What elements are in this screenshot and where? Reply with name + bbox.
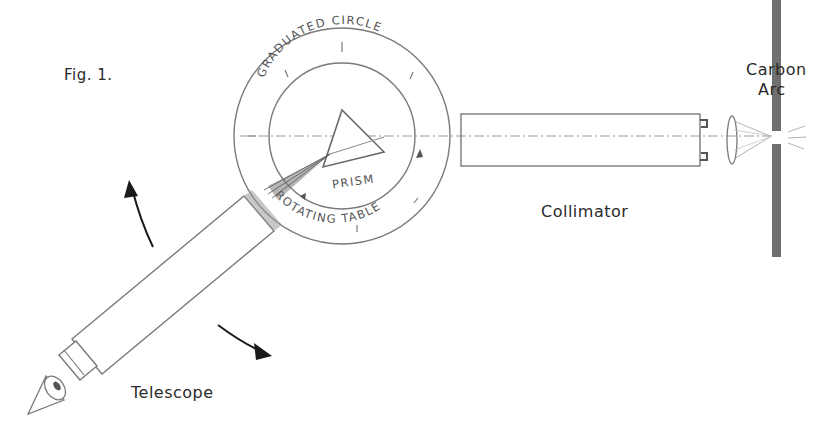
carbon-arc	[772, 0, 806, 257]
collimator	[461, 114, 770, 166]
spectrometer-diagram: GRADUATED CIRCLE ROTATING TABLE PRISM	[0, 0, 832, 430]
svg-text:GRADUATED CIRCLE: GRADUATED CIRCLE	[254, 13, 385, 80]
telescope-label: Telescope	[131, 383, 214, 402]
svg-text:PRISM: PRISM	[331, 172, 376, 192]
prism: PRISM	[323, 110, 384, 191]
figure-caption: Fig. 1.	[64, 66, 113, 84]
carbon-arc-label-line2: Arc	[758, 80, 785, 99]
svg-text:ROTATING TABLE: ROTATING TABLE	[272, 188, 383, 226]
carbon-arc-label-line1: Carbon	[746, 60, 807, 79]
eye-icon	[28, 372, 70, 414]
diagram-drawing: GRADUATED CIRCLE ROTATING TABLE PRISM	[0, 0, 832, 430]
collimator-label: Collimator	[541, 202, 628, 221]
telescope	[59, 190, 282, 380]
